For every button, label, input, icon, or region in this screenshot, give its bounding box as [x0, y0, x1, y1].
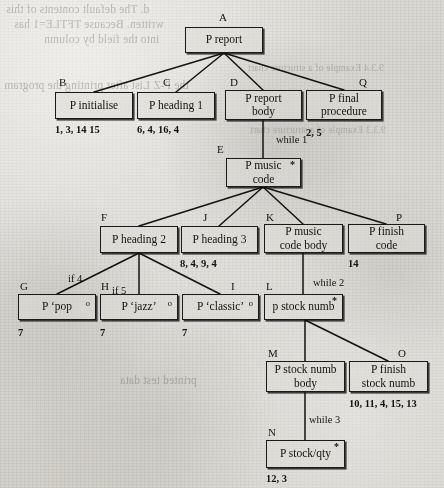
node-j[interactable]: P heading 3: [181, 226, 258, 253]
node-tag-n: N: [268, 427, 276, 438]
selection-marker-icon: o: [249, 298, 253, 308]
node-label: P music code: [245, 159, 281, 186]
node-label: P ‘pop: [42, 300, 72, 313]
node-b[interactable]: P initialise: [55, 92, 133, 119]
node-label: p stock numb: [273, 300, 335, 313]
node-line-numbers: 8, 4, 9, 4: [180, 258, 217, 269]
selection-marker-icon: o: [168, 298, 172, 308]
node-m[interactable]: P stock numb body: [266, 361, 345, 392]
edge-e-to-p: [263, 187, 386, 224]
node-tag-k: K: [266, 212, 274, 223]
node-k[interactable]: P music code body: [264, 224, 343, 253]
node-tag-o: O: [398, 348, 406, 359]
edge-a-to-b: [94, 53, 224, 92]
node-o[interactable]: P finish stock numb: [349, 361, 428, 392]
node-tag-l: L: [266, 281, 273, 292]
edge-e-to-j: [219, 187, 263, 226]
node-label: P final procedure: [321, 92, 367, 119]
node-tag-p: P: [396, 212, 402, 223]
node-p[interactable]: P finish code: [348, 224, 425, 253]
node-label: P report: [206, 33, 242, 46]
iteration-marker-icon: *: [332, 296, 337, 306]
node-label: P initialise: [70, 99, 118, 112]
node-label: P finish code: [369, 225, 404, 252]
node-f[interactable]: P heading 2: [100, 226, 178, 253]
node-line-numbers: 12, 3: [266, 473, 287, 484]
node-n[interactable]: P stock/qty*: [266, 440, 345, 468]
node-line-numbers: 7: [100, 327, 105, 338]
node-label: P heading 3: [193, 233, 247, 246]
edge-l-to-o: [305, 320, 388, 361]
node-line-numbers: 10, 11, 4, 15, 13: [349, 398, 417, 409]
node-c[interactable]: P heading 1: [137, 92, 215, 119]
selection-marker-icon: o: [86, 298, 90, 308]
iteration-marker-icon: *: [334, 442, 339, 452]
node-d[interactable]: P report body: [225, 90, 302, 120]
node-line-numbers: 2, 5: [306, 127, 322, 138]
node-tag-g: G: [20, 281, 28, 292]
node-tag-m: M: [268, 348, 278, 359]
node-g[interactable]: P ‘popo: [18, 294, 96, 320]
node-label: P heading 2: [112, 233, 166, 246]
node-label: P report body: [245, 92, 281, 119]
node-label: P stock numb body: [274, 363, 336, 390]
node-line-numbers: 1, 3, 14 15: [55, 124, 100, 135]
node-l[interactable]: p stock numb*: [264, 294, 343, 320]
node-label: P heading 1: [149, 99, 203, 112]
node-line-numbers: 14: [348, 258, 359, 269]
node-line-numbers: 7: [182, 327, 187, 338]
node-tag-q: Q: [359, 77, 367, 88]
edge-e-to-f: [139, 187, 263, 226]
edge-a-to-q: [224, 53, 344, 90]
node-line-numbers: 6, 4, 16, 4: [137, 124, 179, 135]
edge-label: while 3: [309, 414, 340, 425]
node-label: P ‘jazz’: [121, 300, 156, 313]
node-i[interactable]: P ‘classic’o: [182, 294, 259, 320]
node-label: P finish stock numb: [362, 363, 415, 390]
node-tag-c: C: [163, 77, 170, 88]
edge-label: if 5: [112, 285, 126, 296]
node-h[interactable]: P ‘jazz’o: [100, 294, 178, 320]
node-tag-j: J: [203, 212, 207, 223]
node-label: P ‘classic’: [197, 300, 244, 313]
node-tag-d: D: [230, 77, 238, 88]
node-a[interactable]: P report: [185, 27, 263, 53]
node-tag-e: E: [217, 144, 224, 155]
node-tag-i: I: [231, 281, 235, 292]
iteration-marker-icon: *: [290, 160, 295, 170]
edge-label: while 1: [276, 134, 307, 145]
edge-label: while 2: [313, 277, 344, 288]
node-line-numbers: 7: [18, 327, 23, 338]
node-tag-b: B: [59, 77, 66, 88]
edge-a-to-c: [176, 53, 224, 92]
node-tag-h: H: [101, 281, 109, 292]
node-tag-f: F: [101, 212, 107, 223]
node-e[interactable]: P music code*: [226, 158, 301, 187]
node-label: P music code body: [280, 225, 328, 252]
node-q[interactable]: P final procedure: [306, 90, 382, 120]
node-label: P stock/qty: [280, 447, 331, 460]
edge-label: if 4: [68, 273, 82, 284]
node-tag-a: A: [219, 12, 227, 23]
